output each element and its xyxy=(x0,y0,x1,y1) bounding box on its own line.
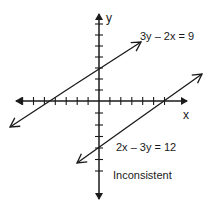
caption-inconsistent: Inconsistent xyxy=(113,169,172,181)
equation-label-line-1: 3y – 2x = 9 xyxy=(140,30,194,42)
y-axis-label: y xyxy=(106,11,112,25)
equation-label-line-2: 2x – 3y = 12 xyxy=(116,141,176,153)
x-axis-label: x xyxy=(183,108,189,122)
x-axis: x xyxy=(16,97,189,122)
coordinate-plane: x y 3y – 2x = 9 2x – 3y = 1 xyxy=(0,0,209,203)
